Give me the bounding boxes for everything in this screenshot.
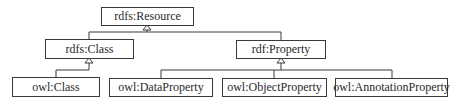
node-owl-class: owl:Class <box>12 77 100 97</box>
node-owl-annotation-property: owl:AnnotationProperty <box>335 78 448 97</box>
node-owl-data-property: owl:DataProperty <box>109 78 213 97</box>
node-rdfs-resource: rdfs:Resource <box>101 7 194 26</box>
node-rdf-property: rdf:Property <box>236 40 326 59</box>
node-rdfs-class: rdfs:Class <box>45 39 134 59</box>
class-hierarchy-diagram: rdfs:Resource rdfs:Class rdf:Property ow… <box>0 0 458 105</box>
node-owl-object-property: owl:ObjectProperty <box>222 78 327 97</box>
